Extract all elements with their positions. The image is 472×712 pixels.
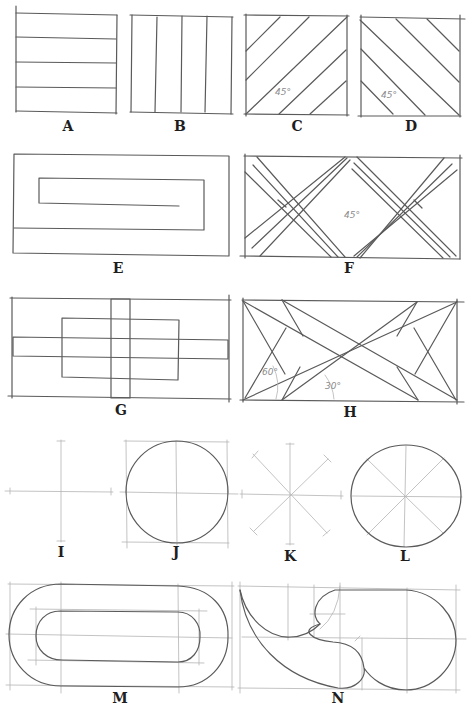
panel-c: 45° C [244,14,349,134]
panel-e: E [13,154,229,276]
panel-label-f: F [344,260,354,276]
sketch-figure: A B 45° C 45° D [0,0,472,712]
angle-label-d: 45° [381,90,397,100]
panel-a: A [16,6,117,134]
panel-d: 45° D [358,15,465,134]
panel-label-n: N [332,690,345,706]
angle-label-f: 45° [344,210,360,220]
angle-label-h-30: 30° [325,381,341,391]
panel-label-l: L [400,548,410,564]
panel-g: G [8,295,231,418]
panel-b: B [130,15,233,134]
panel-label-j: J [171,544,180,560]
panel-n: N [238,582,466,706]
angle-label-h-60: 60° [262,367,278,377]
panel-l: L [351,445,462,564]
panel-label-e: E [113,260,124,276]
panel-label-h: H [343,404,356,420]
panel-label-k: K [284,548,297,564]
panel-k: K [240,443,343,564]
panel-label-a: A [62,118,75,134]
panel-m: M [6,582,234,706]
panel-label-m: M [112,690,128,706]
panel-label-i: I [58,544,65,560]
panel-label-g: G [115,402,127,418]
panel-label-d: D [405,118,417,134]
panel-h: 60° 30° H [240,298,464,420]
panel-i: I [5,440,113,560]
panel-f: 45° F [240,154,462,276]
panel-j: J [120,440,238,560]
panel-label-b: B [174,118,186,134]
angle-label-c: 45° [275,87,291,97]
panel-label-c: C [291,118,302,134]
